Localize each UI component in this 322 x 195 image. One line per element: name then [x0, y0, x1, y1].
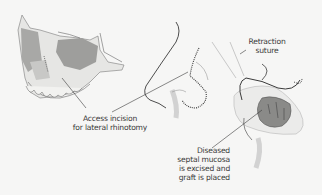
skull-illustration	[18, 15, 124, 98]
label-line: septal mucosa	[158, 155, 230, 164]
label-line: Diseased	[158, 146, 230, 155]
diseased-mucosa-label: Diseased septal mucosa is excised and gr…	[158, 146, 230, 182]
label-line: for lateral rhinotomy	[58, 123, 162, 132]
label-line: graft is placed	[158, 173, 230, 182]
label-line: suture	[238, 46, 296, 55]
retraction-suture-label: Retraction suture	[238, 37, 296, 55]
access-incision-label: Access incision for lateral rhinotomy	[58, 114, 162, 132]
rhinotomy-diagram: Access incision for lateral rhinotomy Re…	[0, 0, 322, 195]
label-line: Access incision	[58, 114, 162, 123]
nose-incision-illustration	[145, 22, 208, 118]
label-line: is excised and	[158, 164, 230, 173]
label-line: Retraction	[238, 37, 296, 46]
